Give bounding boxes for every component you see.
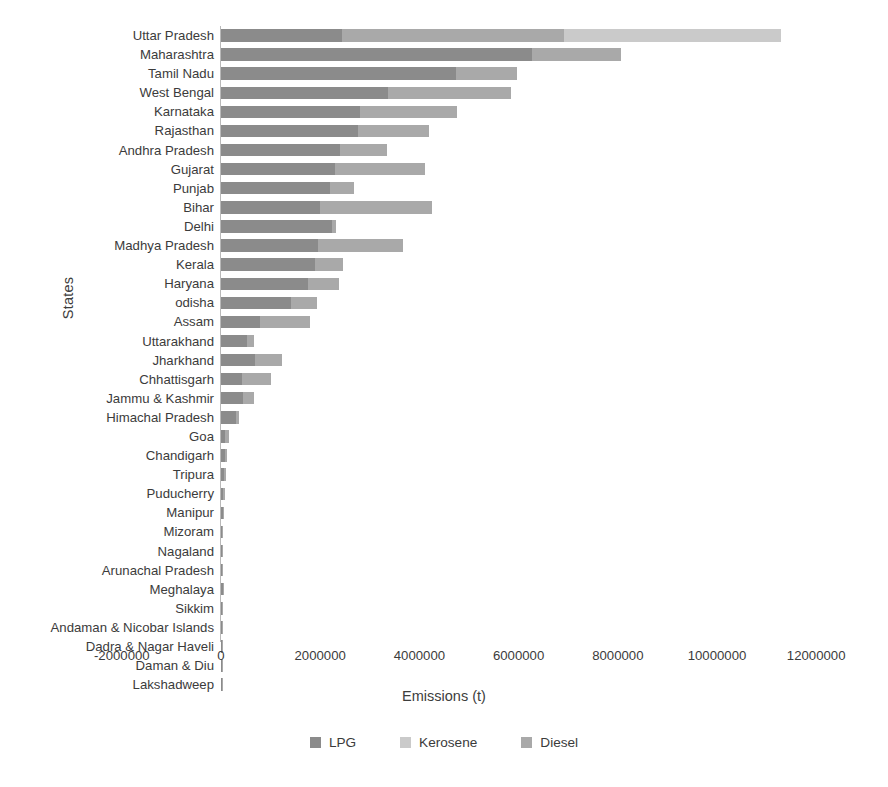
bar-row: Punjab (0, 179, 870, 198)
bar-segment-diesel (335, 163, 425, 175)
stacked-bar (221, 278, 339, 290)
bar-row: Tamil Nadu (0, 64, 870, 83)
legend-label: Kerosene (419, 735, 477, 750)
bar-segment-lpg (221, 354, 255, 366)
legend-item-kerosene[interactable]: Kerosene (400, 735, 477, 750)
stacked-bar-chart: States Uttar PradeshMaharashtraTamil Nad… (0, 0, 888, 787)
chart-legend: LPGKeroseneDiesel (0, 735, 888, 750)
x-axis-tick-label: 6000000 (493, 648, 544, 663)
bar-row: Rajasthan (0, 121, 870, 140)
bar-row: Himachal Pradesh (0, 408, 870, 427)
stacked-bar (221, 67, 517, 79)
bar-segment-lpg (221, 201, 320, 213)
bar-segment-diesel (340, 144, 388, 156)
bar-segment-diesel (225, 449, 226, 461)
bar-row: Karnataka (0, 102, 870, 121)
bar-row: Puducherry (0, 484, 870, 503)
bar-segment-diesel (456, 67, 517, 79)
bar-segment-diesel (318, 239, 403, 251)
bar-row-label: Haryana (0, 274, 214, 293)
stacked-bar (221, 488, 225, 500)
bar-row-label: Punjab (0, 179, 214, 198)
bar-segment-lpg (221, 373, 242, 385)
x-axis-tick-label: 2000000 (295, 648, 346, 663)
bar-row-label: Manipur (0, 503, 214, 522)
bar-segment-lpg (221, 258, 315, 270)
bar-segment-diesel (222, 545, 223, 557)
stacked-bar (221, 239, 403, 251)
bar-row-label: Jharkhand (0, 351, 214, 370)
bar-segment-diesel (358, 125, 429, 137)
bar-row-label: Karnataka (0, 102, 214, 121)
bar-row: odisha (0, 293, 870, 312)
stacked-bar (221, 507, 224, 519)
bar-segment-lpg (221, 392, 243, 404)
stacked-bar (221, 526, 223, 538)
bar-segment-diesel (222, 602, 223, 614)
bar-row: Uttar Pradesh (0, 26, 870, 45)
bar-segment-lpg (221, 144, 340, 156)
bar-segment-kerosene (564, 29, 782, 41)
bar-row-label: Chandigarh (0, 446, 214, 465)
x-axis-title: Emissions (t) (0, 688, 888, 704)
bar-segment-diesel (308, 278, 339, 290)
bar-segment-lpg (221, 48, 532, 60)
bar-row-label: Andhra Pradesh (0, 141, 214, 160)
x-axis-tick-label: 0 (217, 648, 224, 663)
x-axis-tick-label: 8000000 (592, 648, 643, 663)
bar-row: Uttarakhand (0, 332, 870, 351)
stacked-bar (221, 316, 310, 328)
bar-row: Andaman & Nicobar Islands (0, 618, 870, 637)
bar-row-label: Kerala (0, 255, 214, 274)
legend-swatch-diesel-icon (521, 737, 532, 748)
bar-segment-lpg (221, 87, 388, 99)
bar-row: Jammu & Kashmir (0, 389, 870, 408)
legend-swatch-lpg-icon (310, 737, 321, 748)
bar-segment-lpg (221, 316, 260, 328)
stacked-bar (221, 220, 336, 232)
bar-row: West Bengal (0, 83, 870, 102)
stacked-bar (221, 29, 781, 41)
bar-segment-lpg (221, 278, 308, 290)
bar-row: Gujarat (0, 160, 870, 179)
legend-label: Diesel (540, 735, 578, 750)
bar-segment-diesel (332, 220, 336, 232)
stacked-bar (221, 602, 222, 614)
bar-segment-diesel (242, 373, 270, 385)
bar-segment-diesel (320, 201, 432, 213)
legend-item-diesel[interactable]: Diesel (521, 735, 578, 750)
bar-row-label: Tamil Nadu (0, 64, 214, 83)
bar-segment-diesel (223, 507, 224, 519)
bar-segment-diesel (360, 106, 457, 118)
legend-item-lpg[interactable]: LPG (310, 735, 356, 750)
stacked-bar (221, 48, 621, 60)
x-axis-tick-label: 12000000 (787, 648, 846, 663)
bar-row: Manipur (0, 503, 870, 522)
bar-row-label: Gujarat (0, 160, 214, 179)
stacked-bar (221, 564, 223, 576)
stacked-bar (221, 106, 457, 118)
bar-row: Nagaland (0, 542, 870, 561)
stacked-bar (221, 87, 511, 99)
bar-row-label: Madhya Pradesh (0, 236, 214, 255)
bar-row-label: Goa (0, 427, 214, 446)
bar-segment-diesel (224, 468, 226, 480)
bar-row: Andhra Pradesh (0, 141, 870, 160)
bar-row-label: Jammu & Kashmir (0, 389, 214, 408)
bar-segment-diesel (236, 411, 239, 423)
bar-segment-diesel (223, 583, 224, 595)
stacked-bar (221, 621, 222, 633)
bar-segment-lpg (221, 163, 335, 175)
bar-row: Maharashtra (0, 45, 870, 64)
bar-segment-diesel (255, 354, 283, 366)
bar-segment-lpg (221, 239, 318, 251)
stacked-bar (221, 411, 239, 423)
bar-row: Kerala (0, 255, 870, 274)
bar-row-label: Himachal Pradesh (0, 408, 214, 427)
stacked-bar (221, 545, 223, 557)
stacked-bar (221, 201, 432, 213)
stacked-bar (221, 449, 227, 461)
bar-row: Mizoram (0, 522, 870, 541)
bar-segment-diesel (243, 392, 254, 404)
bar-row: Assam (0, 312, 870, 331)
